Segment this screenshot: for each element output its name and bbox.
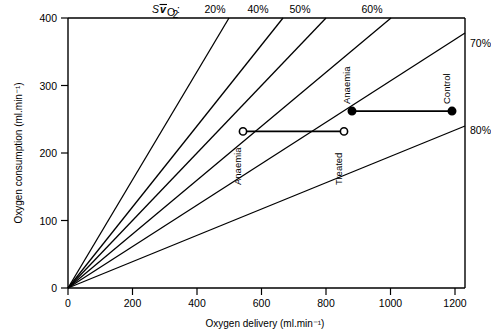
y-tick-label-400: 400 <box>39 12 57 24</box>
data-point-treated-open[interactable] <box>340 128 347 135</box>
iso-label-80: 80% <box>470 124 491 136</box>
y-axis-title: Oxygen consumption (ml.min⁻¹) <box>13 82 24 223</box>
iso-label-20: 20% <box>204 3 225 15</box>
y-tick-label-300: 300 <box>39 80 57 92</box>
iso-label-40: 40% <box>247 3 268 15</box>
svo2-colon: : <box>177 3 180 15</box>
x-tick-label-400: 400 <box>188 297 206 309</box>
iso-label-50: 50% <box>289 3 310 15</box>
x-tick-label-600: 600 <box>253 297 271 309</box>
svo2-s-glyph: S <box>152 3 159 15</box>
x-tick-label-1000: 1000 <box>379 297 403 309</box>
iso-label-60: 60% <box>361 3 382 15</box>
annotation-anaemia-filled: Anaemia <box>341 66 352 104</box>
x-tick-label-1200: 1200 <box>443 297 467 309</box>
y-tick-label-100: 100 <box>39 215 57 227</box>
annotation-treated: Treated <box>333 153 344 185</box>
x-tick-label-0: 0 <box>65 297 71 309</box>
x-tick-label-800: 800 <box>317 297 335 309</box>
x-tick-label-200: 200 <box>124 297 142 309</box>
annotation-anaemia-open: Anaemia <box>232 147 243 185</box>
x-axis-title: Oxygen delivery (ml.min⁻¹) <box>206 318 325 329</box>
y-tick-label-200: 200 <box>39 147 57 159</box>
data-point-anaemia-filled[interactable] <box>348 107 356 115</box>
annotation-control: Control <box>441 73 452 104</box>
chart-figure: 0 100 200 300 400 0 200 400 600 800 1000… <box>0 0 491 336</box>
iso-label-70: 70% <box>470 37 491 49</box>
data-point-anaemia-open[interactable] <box>239 128 246 135</box>
data-point-control-filled[interactable] <box>448 107 456 115</box>
oxygen-delivery-consumption-plot: 0 100 200 300 400 0 200 400 600 800 1000… <box>0 0 491 336</box>
y-tick-label-0: 0 <box>51 282 57 294</box>
